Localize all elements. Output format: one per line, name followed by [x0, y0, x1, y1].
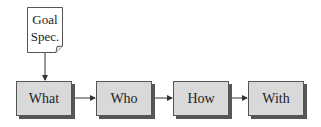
goal-spec-label: Goal Spec. [27, 11, 63, 45]
node-who-label: Who [110, 91, 137, 107]
node-how: How [173, 81, 229, 116]
goal-spec-line2: Spec. [27, 28, 63, 45]
goal-spec-line1: Goal [27, 11, 63, 28]
goal-spec-document: Goal Spec. [27, 7, 63, 52]
node-what-label: What [29, 91, 59, 107]
node-how-label: How [187, 91, 214, 107]
node-with-label: With [262, 91, 289, 107]
node-who: Who [96, 81, 152, 116]
node-what: What [16, 81, 72, 116]
node-with: With [248, 81, 304, 116]
